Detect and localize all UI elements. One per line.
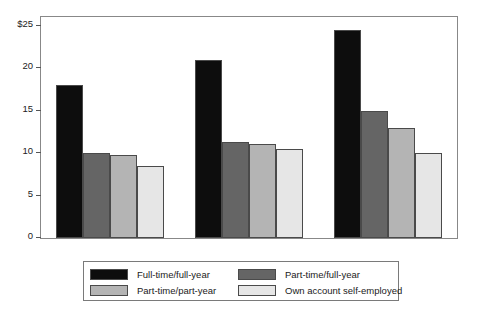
bar-1999-series-3: [137, 166, 164, 238]
legend-label: Part-time/part-year: [137, 285, 216, 296]
legend-swatch-icon: [238, 269, 276, 280]
y-axis-tick-mark: [36, 152, 41, 153]
y-axis-tick-mark: [36, 237, 41, 238]
y-axis-tick-label: $25: [17, 19, 33, 29]
legend-item-part-time-part-year: Part-time/part-year: [84, 282, 236, 298]
plot-area: 05101520$25199920052011: [41, 17, 457, 238]
y-axis-tick-mark: [36, 25, 41, 26]
legend-item-own-account-self-employed: Own account self-employed: [236, 282, 398, 298]
y-axis-tick-mark: [36, 195, 41, 196]
y-axis-tick-mark: [36, 110, 41, 111]
bar-2005-series-0: [195, 60, 222, 239]
bar-2005-series-2: [249, 144, 276, 238]
y-axis-tick-label: 15: [22, 104, 33, 114]
y-axis-tick-mark: [36, 67, 41, 68]
bar-2005-series-3: [276, 149, 303, 238]
bar-chart-figure: 05101520$25199920052011 Full-time/full-y…: [0, 0, 480, 310]
bar-2011-series-3: [415, 153, 442, 238]
legend-label: Full-time/full-year: [137, 269, 210, 280]
legend-label: Own account self-employed: [285, 285, 402, 296]
legend-item-part-time-full-year: Part-time/full-year: [236, 266, 398, 282]
bar-1999-series-0: [56, 85, 83, 238]
bar-2011-series-0: [334, 30, 361, 238]
bar-2011-series-2: [388, 128, 415, 239]
y-axis-tick-label: 0: [28, 231, 33, 241]
y-axis-tick-label: 20: [22, 61, 33, 71]
legend-swatch-icon: [90, 285, 128, 296]
bar-1999-series-2: [110, 155, 137, 238]
chart-legend: Full-time/full-year Part-time/full-year …: [83, 261, 399, 301]
legend-label: Part-time/full-year: [285, 269, 360, 280]
legend-swatch-icon: [238, 285, 276, 296]
bar-2011-series-1: [361, 111, 388, 239]
bar-2005-series-1: [222, 142, 249, 238]
legend-swatch-icon: [90, 269, 128, 280]
y-axis-tick-label: 5: [28, 189, 33, 199]
legend-row: Full-time/full-year Part-time/full-year: [84, 266, 398, 282]
y-axis-tick-label: 10: [22, 146, 33, 156]
bar-1999-series-1: [83, 153, 110, 238]
legend-item-full-time-full-year: Full-time/full-year: [84, 266, 236, 282]
legend-row: Part-time/part-year Own account self-emp…: [84, 282, 398, 298]
